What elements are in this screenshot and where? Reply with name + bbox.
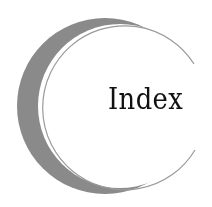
index-title: Index [108,84,183,114]
